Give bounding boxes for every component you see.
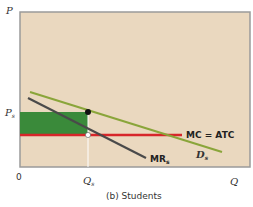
x-axis-label: Q [230, 176, 238, 187]
plot-area [20, 12, 250, 167]
mc-atc-label: MC = ATC [186, 130, 235, 140]
price-point [85, 109, 91, 115]
caption: (b) Students [106, 191, 162, 201]
y-axis-label: P [5, 5, 13, 16]
origin-label: 0 [16, 172, 22, 182]
qs-label: Qs [83, 175, 94, 187]
ps-label: Ps [4, 107, 15, 119]
mr-mc-point [85, 132, 90, 137]
chart: P Q 0 Ps Qs MC = ATC Ds MRs (b) Students [0, 0, 253, 207]
